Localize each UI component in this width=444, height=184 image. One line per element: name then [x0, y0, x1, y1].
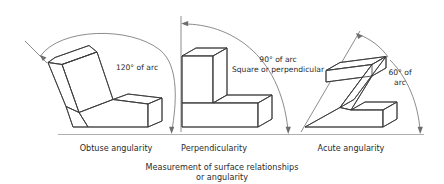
panel-obtuse-angularity: 120° of arc Obtuse angularity [25, 33, 175, 153]
angularity-diagram-svg: 120° of arc Obtuse angularity [0, 0, 444, 184]
acute-annotation-line2: arc [394, 78, 406, 87]
perpendicular-arc-start-arrowhead [181, 21, 188, 26]
acute-annotation-line1: 60° of [388, 68, 412, 77]
perpendicular-tall-front-face [182, 56, 213, 103]
perpendicular-annotation-line1: 90° of arc [259, 55, 296, 64]
obtuse-arc-start-arrowhead [40, 55, 47, 61]
obtuse-annotation-line1: 120° of arc [116, 63, 158, 72]
angularity-figure: 120° of arc Obtuse angularity [0, 0, 444, 184]
perpendicular-step-front-face [182, 103, 258, 127]
acute-arc-end-arrowhead [418, 127, 423, 134]
panel-perpendicularity: 90° of arc Square or perpendicular Perpe… [181, 16, 325, 153]
perpendicular-tall-right-face [213, 48, 227, 103]
acute-apex-arc [357, 34, 388, 57]
perpendicular-arc-end-arrowhead [286, 127, 291, 134]
obtuse-arc-end-arrowhead [169, 127, 174, 134]
figure-caption-group: Measurement of surface relationships or … [146, 162, 299, 182]
perpendicular-panel-label: Perpendicularity [181, 143, 247, 153]
perpendicular-annotation-line2: Square or perpendicular [232, 65, 325, 74]
figure-caption-line1: Measurement of surface relationships [146, 162, 299, 172]
obtuse-panel-label: Obtuse angularity [80, 143, 153, 153]
figure-caption-line2: or angularity [196, 172, 248, 182]
acute-panel-label: Acute angularity [318, 143, 385, 153]
